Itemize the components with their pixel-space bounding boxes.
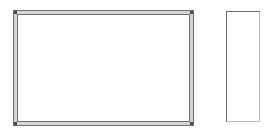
- corner-mark-top-left: [14, 11, 17, 14]
- large-framed-rectangle: Large framed rectangle: [13, 10, 194, 126]
- drawing-canvas: Large framed rectangle Small plain recta…: [0, 0, 275, 137]
- corner-mark-bottom-left: [14, 122, 17, 125]
- small-plain-rectangle: Small plain rectangle: [226, 11, 260, 122]
- small-rectangle-label: Small plain rectangle: [227, 12, 228, 13]
- large-rectangle-inner-outline: [17, 14, 190, 122]
- corner-mark-top-right: [190, 11, 193, 14]
- corner-mark-bottom-right: [190, 122, 193, 125]
